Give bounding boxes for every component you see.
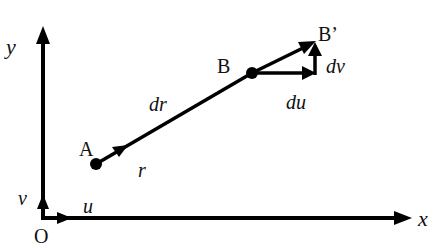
x-axis-label: x [418,208,428,230]
point-b-label: B [217,56,230,76]
diagram-svg [0,0,434,248]
x-axis [41,211,412,225]
point-b-prime-label: B’ [318,24,338,44]
unit-vector-u [57,212,72,224]
y-axis-label: y [6,36,16,58]
vector-du-label: du [286,92,306,112]
vector-r-label: r [138,160,146,180]
point-a-label: A [79,139,93,159]
y-axis [36,26,50,220]
origin-label: O [34,226,48,246]
unit-v-label: v [18,188,27,208]
unit-u-label: u [83,196,93,216]
unit-vector-v [37,194,49,209]
vector-dr-label: dr [149,94,167,114]
vector-diagram: y x O v u A r dr B B’ dv du [0,0,434,248]
vector-dv-label: dv [326,56,345,76]
